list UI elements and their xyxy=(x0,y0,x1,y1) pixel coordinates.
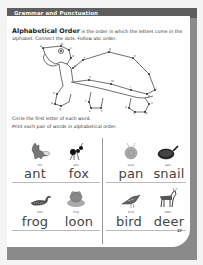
writing-line xyxy=(106,230,186,231)
writing-line xyxy=(12,182,100,183)
page-frame: Grammar and Punctuation Alphabetical Ord… xyxy=(7,8,197,260)
svg-text:p: p xyxy=(51,101,53,105)
svg-text:j: j xyxy=(155,86,157,90)
svg-text:r: r xyxy=(85,99,87,103)
writing-line xyxy=(106,182,186,183)
answer-word: ant xyxy=(12,166,58,181)
svg-text:l: l xyxy=(130,85,131,89)
svg-text:s: s xyxy=(89,109,91,113)
svg-text:k: k xyxy=(148,94,150,98)
svg-text:d: d xyxy=(72,54,74,58)
page-number: 27 xyxy=(177,229,182,233)
answer-word: deer xyxy=(146,214,192,229)
pan-icon xyxy=(157,142,179,162)
svg-text:w: w xyxy=(145,111,148,114)
svg-text:b: b xyxy=(61,42,63,46)
instruction-circle: Circle the first letter of each word. xyxy=(12,116,187,121)
answer-word: frog xyxy=(12,214,58,229)
svg-text:m: m xyxy=(111,79,114,83)
svg-text:g: g xyxy=(109,47,111,51)
ant-icon xyxy=(65,142,87,162)
svg-text:i: i xyxy=(150,70,151,74)
frog-icon xyxy=(65,188,87,208)
bird-icon xyxy=(120,190,142,210)
svg-text:n: n xyxy=(89,75,91,79)
turtle-dot-to-dot-icon: abc def ghi jkl mno pqr stu vwx xyxy=(31,42,166,114)
fox-icon xyxy=(29,142,51,162)
answer-word: fox xyxy=(56,166,102,181)
content-area: Alphabetical Order is the order in which… xyxy=(7,16,190,247)
svg-text:h: h xyxy=(134,54,136,58)
loon-icon xyxy=(29,190,51,210)
svg-text:e: e xyxy=(74,64,76,68)
panel-divider xyxy=(102,138,103,244)
svg-text:q: q xyxy=(59,107,61,111)
svg-text:x: x xyxy=(151,101,153,105)
svg-text:v: v xyxy=(133,111,135,114)
svg-text:o: o xyxy=(53,91,55,95)
worksheet-page: Grammar and Punctuation Alphabetical Ord… xyxy=(0,0,203,265)
instruction-print: Print each pair of words in alphabetical… xyxy=(12,124,187,129)
intro-text: Alphabetical Order is the order in which… xyxy=(12,28,187,42)
svg-text:c: c xyxy=(70,46,72,50)
answer-word: loon xyxy=(56,214,102,229)
writing-line xyxy=(12,230,100,231)
intro-term: Alphabetical Order xyxy=(12,27,80,35)
deer-icon xyxy=(157,188,179,208)
svg-text:a: a xyxy=(40,44,42,48)
answer-word: snail xyxy=(145,166,193,181)
svg-text:t: t xyxy=(101,109,103,113)
svg-text:u: u xyxy=(125,105,127,109)
snail-icon xyxy=(120,142,142,162)
